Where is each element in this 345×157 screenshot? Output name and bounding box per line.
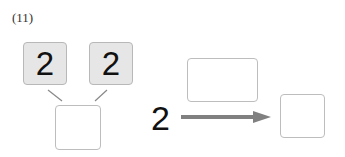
left-connector-line bbox=[48, 90, 62, 101]
operation-answer-box[interactable] bbox=[187, 58, 258, 102]
result-answer-box[interactable] bbox=[280, 94, 325, 138]
arrow-head-icon bbox=[253, 111, 271, 123]
sum-answer-box[interactable] bbox=[55, 105, 101, 150]
right-connector-line bbox=[95, 90, 107, 101]
start-number: 2 bbox=[151, 101, 170, 135]
